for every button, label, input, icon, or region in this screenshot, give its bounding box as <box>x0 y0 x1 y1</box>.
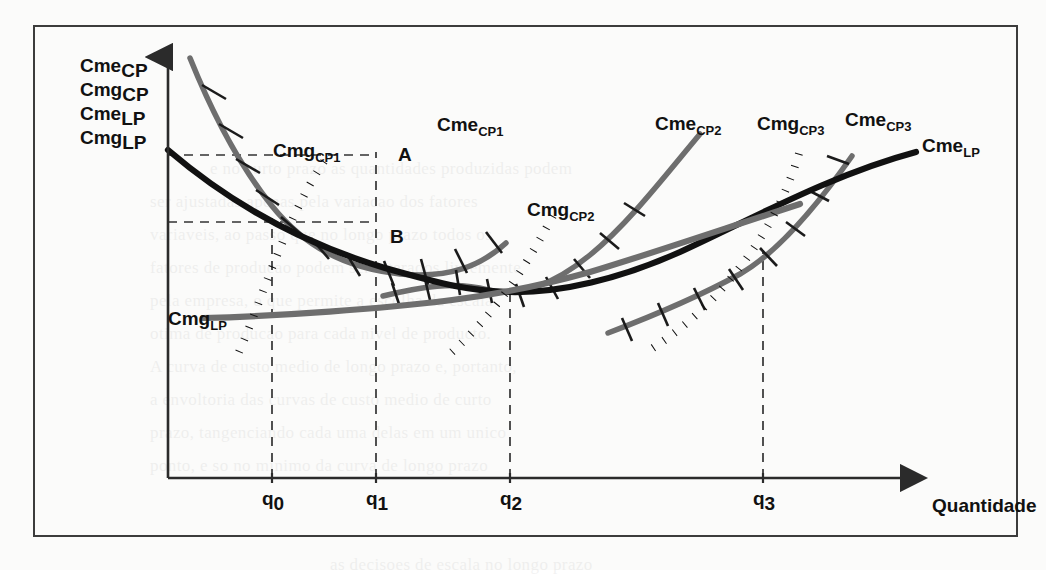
x-axis-tick-labels: q0 q1 q2 q3 <box>262 488 775 514</box>
curve-cmg-cp1 <box>239 156 328 352</box>
curve-cmg-cp3 <box>653 150 800 348</box>
y-axis-label-cme-lp: CmeLP <box>80 103 146 129</box>
x-tick-label-q3: q3 <box>753 488 775 514</box>
curve-label-cme-cp1: CmeCP1 <box>437 114 503 139</box>
curve-label-cmg-lp: CmgLP <box>168 308 227 333</box>
x-tick-label-q0: q0 <box>262 488 284 514</box>
point-label-b: B <box>390 226 404 247</box>
point-label-a: A <box>398 144 412 165</box>
y-axis-label-cmg-lp: CmgLP <box>80 127 147 153</box>
point-labels: A B <box>390 144 412 247</box>
curve-label-cme-cp3: CmeCP3 <box>845 109 911 134</box>
x-axis-title: Quantidade <box>932 495 1037 516</box>
curve-cme-cp1 <box>190 58 506 286</box>
curve-cme-cp3 <box>608 156 852 341</box>
curve-label-cme-cp2: CmeCP2 <box>655 113 721 138</box>
y-axis-label-cme-cp: CmeCP <box>80 55 148 81</box>
curve-label-cmg-cp2: CmgCP2 <box>527 199 595 224</box>
curve-label-cme-lp: CmeLP <box>922 135 980 160</box>
y-axis-label-cmg-cp: CmgCP <box>80 79 149 105</box>
y-axis-label-stack: CmeCP CmgCP CmeLP CmgLP <box>80 55 149 153</box>
x-tick-label-q2: q2 <box>500 488 522 514</box>
curve-cmg-lp <box>203 204 800 318</box>
curve-labels: CmgCP1 CmeCP1 CmgCP2 CmeCP2 CmgCP3 CmeCP… <box>168 109 980 333</box>
axes <box>168 57 923 483</box>
x-tick-label-q1: q1 <box>366 488 389 514</box>
curve-label-cmg-cp1: CmgCP1 <box>273 140 341 165</box>
curve-label-cmg-cp3: CmgCP3 <box>757 113 825 138</box>
